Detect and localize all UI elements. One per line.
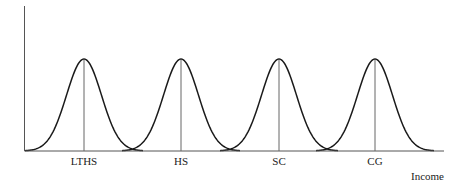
x-axis-label: Income [411,170,444,182]
mean-lines [84,59,375,151]
category-label-hs: HS [174,155,188,167]
distribution-diagram: LTHS HS SC CG Income [0,0,463,187]
category-label-lths: LTHS [71,155,98,167]
category-label-sc: SC [272,155,285,167]
bell-curves [25,59,434,151]
category-label-cg: CG [367,155,382,167]
